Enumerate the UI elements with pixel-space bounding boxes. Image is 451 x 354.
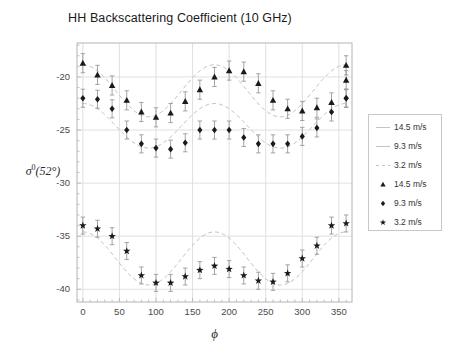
legend-symbol-triangle-icon bbox=[374, 175, 392, 194]
x-tick-label-7: 350 bbox=[324, 306, 354, 317]
legend-symbol-line-icon bbox=[374, 118, 392, 137]
legend-entry-4: 9.3 m/s bbox=[369, 194, 443, 213]
legend-symbol-diamond-icon bbox=[374, 194, 392, 213]
x-tick-label-1: 50 bbox=[104, 306, 134, 317]
fit-curves bbox=[83, 65, 346, 285]
legend-label-4: 9.3 m/s bbox=[394, 198, 422, 208]
legend-symbol-star-icon bbox=[374, 213, 392, 232]
legend-entry-0: 14.5 m/s bbox=[369, 118, 443, 137]
legend-entry-1: 9.3 m/s bbox=[369, 137, 443, 156]
legend-entry-2: 3.2 m/s bbox=[369, 156, 443, 175]
y-tick-label-3: -35 bbox=[44, 230, 70, 241]
x-tick-label-6: 300 bbox=[287, 306, 317, 317]
error-bars bbox=[81, 54, 349, 292]
legend-entry-3: 14.5 m/s bbox=[369, 175, 443, 194]
legend-label-0: 14.5 m/s bbox=[394, 122, 427, 132]
legend-symbol-dashed-line-icon bbox=[374, 156, 392, 175]
x-tick-label-2: 100 bbox=[141, 306, 171, 317]
y-tick-label-2: -30 bbox=[44, 177, 70, 188]
legend-symbol-line-icon bbox=[374, 137, 392, 156]
legend-label-5: 3.2 m/s bbox=[394, 217, 422, 227]
y-tick-label-0: -20 bbox=[44, 71, 70, 82]
legend: 14.5 m/s9.3 m/s3.2 m/s14.5 m/s9.3 m/s3.2… bbox=[368, 114, 442, 231]
x-tick-label-5: 250 bbox=[251, 306, 281, 317]
legend-label-2: 3.2 m/s bbox=[394, 160, 422, 170]
legend-entry-5: 3.2 m/s bbox=[369, 213, 443, 232]
y-tick-label-4: -40 bbox=[44, 283, 70, 294]
x-tick-label-0: 0 bbox=[68, 306, 98, 317]
x-tick-label-4: 200 bbox=[214, 306, 244, 317]
x-tick-label-3: 150 bbox=[178, 306, 208, 317]
legend-label-1: 9.3 m/s bbox=[394, 141, 422, 151]
figure: HH Backscattering Coefficient (10 GHz) σ… bbox=[0, 0, 451, 354]
y-tick-label-1: -25 bbox=[44, 124, 70, 135]
legend-label-3: 14.5 m/s bbox=[394, 179, 427, 189]
axis-ticks bbox=[77, 45, 346, 302]
